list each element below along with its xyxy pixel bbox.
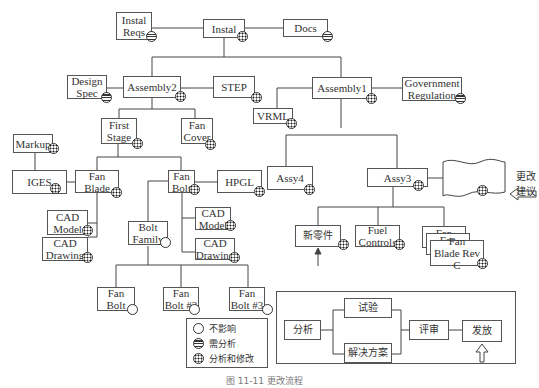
flow-solution: 解决方案 <box>344 343 392 363</box>
flow-release: 发放 <box>462 320 502 342</box>
node-new-part: 新零件 <box>295 225 341 247</box>
empty-circle-icon <box>189 304 200 315</box>
striped-circle-icon <box>455 93 466 104</box>
node-label: VRML <box>257 110 289 122</box>
legend-label: 不影响 <box>209 322 236 335</box>
dotted-circle-icon <box>286 118 297 129</box>
dotted-circle-icon <box>304 184 315 195</box>
node-label: Assembly2 <box>127 81 177 93</box>
dotted-circle-icon <box>225 220 236 231</box>
node-label: Fuel Controls <box>359 224 397 248</box>
node-label: Assy4 <box>276 172 304 184</box>
node-label: Markup <box>16 138 51 150</box>
node-assembly1: Assembly1 <box>312 77 372 99</box>
node-label: CAD Drawing <box>46 237 85 261</box>
dotted-circle-icon <box>82 252 93 263</box>
node-label: Bolt Family <box>132 221 163 245</box>
node-label: Fan Bolt <box>107 287 126 311</box>
dotted-circle-icon <box>254 186 265 197</box>
node-label: IGES <box>27 176 51 188</box>
node-government-regulation: Government Regulation <box>402 77 462 101</box>
dotted-circle-icon <box>205 139 216 150</box>
dotted-circle-icon <box>366 93 377 104</box>
legend-label: 分析和修改 <box>209 352 254 365</box>
node-label: Fan Blade <box>84 170 110 194</box>
node-label: Design Spec <box>71 75 102 99</box>
node-fan-bolt-3: Fan Bolt #3 <box>229 287 265 311</box>
striped-circle-icon <box>146 31 157 42</box>
legend-item: 需分析 <box>193 337 236 350</box>
node-label: 新零件 <box>303 230 333 242</box>
node-label: HPGL <box>225 176 254 188</box>
dotted-circle-icon <box>189 184 200 195</box>
dotted-circle-icon <box>338 239 349 250</box>
dotted-circle-icon <box>477 258 488 269</box>
dotted-circle-icon <box>477 185 488 196</box>
node-label: Instal Reqs <box>122 14 146 38</box>
dotted-circle-icon <box>50 183 61 194</box>
flow-test: 试验 <box>344 298 392 318</box>
node-label: First Stage <box>107 119 131 143</box>
node-label: Instal <box>212 23 236 35</box>
legend-item: 不影响 <box>193 322 236 335</box>
node-label: STEP <box>221 81 247 93</box>
dotted-circle-icon <box>175 91 186 102</box>
empty-circle-icon <box>160 237 171 248</box>
dotted-circle-icon <box>82 225 93 236</box>
legend-label: 需分析 <box>209 337 236 350</box>
flow-label: 发放 <box>472 325 492 337</box>
dotted-circle-icon <box>48 143 59 154</box>
dotted-circle-icon <box>132 138 143 149</box>
node-label: Fan Blade Rev C <box>431 235 483 271</box>
node-label: CAD Model <box>53 211 82 235</box>
striped-circle-icon <box>193 338 204 349</box>
empty-circle-icon <box>193 323 204 334</box>
node-markup: Markup <box>13 134 53 153</box>
flow-label: 评审 <box>419 324 439 336</box>
dotted-circle-icon <box>413 180 424 191</box>
empty-circle-icon <box>262 304 273 315</box>
flow-label: 分析 <box>293 324 313 336</box>
legend-item: 分析和修改 <box>193 352 254 365</box>
dotted-circle-icon <box>394 239 405 250</box>
node-fan-blade-rev-c: Fan Blade Rev C <box>430 240 484 266</box>
dotted-circle-icon <box>251 92 262 103</box>
figure-caption: 图 11-11 更改流程 <box>226 374 303 387</box>
striped-circle-icon <box>101 92 112 103</box>
dotted-circle-icon <box>111 187 122 198</box>
flow-review: 评审 <box>409 320 449 340</box>
dotted-circle-icon <box>237 31 248 42</box>
node-step: STEP <box>213 76 255 98</box>
node-label: Assy3 <box>384 172 412 184</box>
node-label: Assembly1 <box>317 82 367 94</box>
flow-label: 解决方案 <box>348 347 388 359</box>
node-label: CAD Model <box>199 207 228 231</box>
node-label: Government Regulation <box>405 77 460 101</box>
node-assembly2: Assembly2 <box>123 76 181 98</box>
node-label: Fan Bolt #3 <box>231 287 264 311</box>
node-label: Docs <box>294 22 317 34</box>
striped-circle-icon <box>322 31 333 42</box>
empty-circle-icon <box>127 304 138 315</box>
flow-analyze: 分析 <box>284 320 321 340</box>
dotted-circle-icon <box>229 252 240 263</box>
flow-label: 试验 <box>358 302 378 314</box>
dotted-circle-icon <box>193 353 204 364</box>
legend: 不影响 需分析 分析和修改 <box>186 318 268 368</box>
change-request-label: 更改建议 <box>516 168 539 198</box>
